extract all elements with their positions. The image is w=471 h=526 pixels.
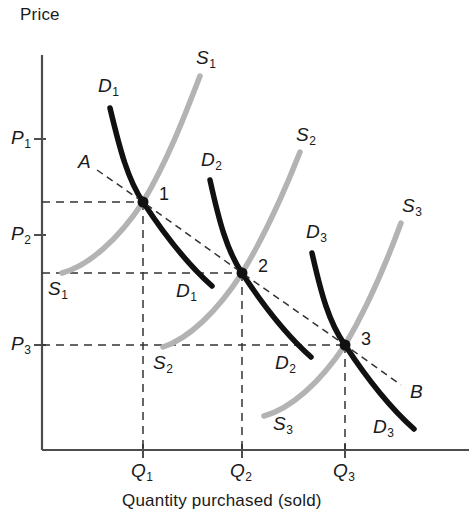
y-tick-label-p2-sub: 2 bbox=[24, 233, 31, 247]
y-tick-label-p3: P3 bbox=[11, 334, 30, 353]
y-tick-label-p1-sub: 1 bbox=[24, 137, 31, 151]
curve-label-s2-bottom: S2 bbox=[153, 353, 172, 372]
equilibrium-dot-2 bbox=[237, 268, 248, 279]
equilibrium-label-3: 3 bbox=[361, 330, 371, 348]
x-tick-label-q1-sub: 1 bbox=[146, 470, 153, 484]
curve-label-d1-top-base: D bbox=[98, 75, 112, 96]
equilibrium-label-1: 1 bbox=[159, 185, 169, 203]
curve-label-s1-bottom: S1 bbox=[48, 279, 67, 298]
curve-label-s1-top-sub: 1 bbox=[209, 57, 216, 71]
curve-label-s3-top: S3 bbox=[402, 196, 421, 215]
y-tick-label-p2-base: P bbox=[11, 223, 24, 244]
y-axis-title: Price bbox=[20, 6, 60, 23]
curve-label-d3-top: D3 bbox=[306, 222, 326, 241]
curve-label-d2-bottom: D2 bbox=[275, 353, 295, 372]
x-tick-label-q2-sub: 2 bbox=[245, 470, 252, 484]
equilibrium-dot-1 bbox=[138, 197, 149, 208]
curve-label-d1-top-sub: 1 bbox=[112, 85, 119, 99]
curve-label-s2-bottom-sub: 2 bbox=[166, 362, 173, 376]
x-tick-label-q3: Q3 bbox=[333, 461, 354, 480]
curve-label-s3-top-base: S bbox=[402, 195, 415, 216]
curve-label-s2-top-sub: 2 bbox=[309, 134, 316, 148]
y-tick-label-p3-base: P bbox=[11, 333, 24, 354]
curve-label-s1-top: S1 bbox=[196, 48, 215, 67]
x-tick-label-q3-sub: 3 bbox=[348, 470, 355, 484]
curve-label-d2-bottom-sub: 2 bbox=[289, 362, 296, 376]
equilibrium-dot-3 bbox=[340, 340, 351, 351]
curve-label-d2-top: D2 bbox=[201, 150, 221, 169]
y-tick-label-p3-sub: 3 bbox=[24, 343, 31, 357]
y-tick-label-p1-base: P bbox=[11, 127, 24, 148]
x-tick-label-q1: Q1 bbox=[131, 461, 152, 480]
x-tick-label-q1-base: Q bbox=[131, 460, 146, 481]
curve-label-s1-top-base: S bbox=[196, 47, 209, 68]
curve-label-d1-bottom-base: D bbox=[176, 280, 190, 301]
trend-label-b: B bbox=[410, 382, 423, 401]
curve-label-d3-top-sub: 3 bbox=[320, 231, 327, 245]
supply-demand-figure: Price Quantity purchased (sold) P1 P2 P3… bbox=[0, 0, 471, 526]
curve-label-d2-bottom-base: D bbox=[275, 352, 289, 373]
x-tick-label-q2: Q2 bbox=[230, 461, 251, 480]
curve-label-s1-bottom-base: S bbox=[48, 278, 61, 299]
curve-label-d2-top-base: D bbox=[201, 149, 215, 170]
curve-label-d1-bottom: D1 bbox=[176, 281, 196, 300]
curve-label-s1-bottom-sub: 1 bbox=[61, 288, 68, 302]
curve-label-d3-bottom-base: D bbox=[373, 416, 387, 437]
x-tick-label-q3-base: Q bbox=[333, 460, 348, 481]
plot-canvas bbox=[0, 0, 471, 526]
curve-label-d1-top: D1 bbox=[98, 76, 118, 95]
x-axis-title: Quantity purchased (sold) bbox=[122, 492, 322, 509]
curve-label-d2-top-sub: 2 bbox=[215, 159, 222, 173]
y-tick-label-p2: P2 bbox=[11, 224, 30, 243]
curve-label-s3-bottom-sub: 3 bbox=[286, 423, 293, 437]
y-axis-ticks bbox=[34, 139, 46, 345]
x-tick-label-q2-base: Q bbox=[230, 460, 245, 481]
curve-label-s3-bottom-base: S bbox=[273, 413, 286, 434]
trend-label-a: A bbox=[78, 152, 91, 171]
curve-label-d3-top-base: D bbox=[306, 221, 320, 242]
curve-label-d3-bottom-sub: 3 bbox=[387, 426, 394, 440]
curve-label-d3-bottom: D3 bbox=[373, 417, 393, 436]
curve-label-s2-top: S2 bbox=[296, 125, 315, 144]
y-tick-label-p1: P1 bbox=[11, 128, 30, 147]
equilibrium-label-2: 2 bbox=[258, 257, 268, 275]
curve-label-d1-bottom-sub: 1 bbox=[190, 290, 197, 304]
curve-label-s3-bottom: S3 bbox=[273, 414, 292, 433]
curve-label-s2-bottom-base: S bbox=[153, 352, 166, 373]
curve-label-s2-top-base: S bbox=[296, 124, 309, 145]
curve-label-s3-top-sub: 3 bbox=[415, 205, 422, 219]
